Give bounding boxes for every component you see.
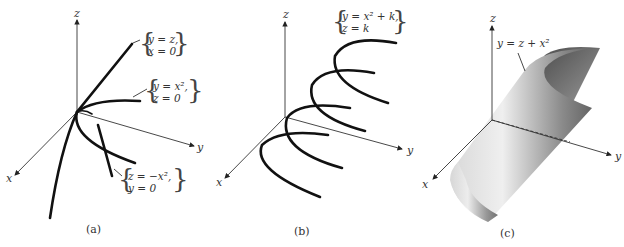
- panel-b: z y x { y = x² + k, z = k } (b): [216, 6, 414, 238]
- figure: z y x { y = z, x = 0 } { y = x², z = 0 }…: [0, 0, 624, 247]
- svg-text:y = 0: y = 0: [127, 182, 156, 194]
- caption-c: (c): [500, 227, 515, 240]
- y-axis-label: y: [196, 141, 204, 154]
- z-axis-label: z: [73, 7, 80, 20]
- panel-a: z y x { y = z, x = 0 } { y = x², z = 0 }…: [6, 7, 204, 236]
- y-axis-label: y: [406, 144, 414, 157]
- svg-text:}: }: [392, 6, 409, 36]
- equation-y-eq-z: { y = z, x = 0 }: [139, 28, 190, 58]
- surface-label-leader: [518, 53, 525, 71]
- y-axis: [77, 112, 194, 146]
- svg-text:z = 0: z = 0: [152, 92, 181, 104]
- svg-text:y = x² + k,: y = x² + k,: [341, 10, 399, 22]
- parabola-k1: [286, 106, 350, 168]
- x-axis: [225, 117, 285, 178]
- caption-a: (a): [86, 223, 101, 236]
- curve-short-segment: [98, 125, 112, 176]
- svg-text:z = −x²,: z = −x²,: [127, 170, 171, 182]
- y-axis-label: y: [614, 150, 622, 163]
- equation-z-eq-neg-x2: { z = −x², y = 0 }: [118, 164, 189, 194]
- x-axis-label: x: [422, 178, 429, 191]
- svg-text:y = x²,: y = x²,: [152, 80, 188, 92]
- parabola-k0: [261, 133, 328, 197]
- x-axis: [15, 112, 77, 175]
- panel-c: z y x y = z + x² (c): [422, 12, 622, 240]
- svg-text:}: }: [173, 28, 190, 58]
- x-axis-label: x: [216, 176, 223, 189]
- z-axis-label: z: [282, 8, 289, 21]
- equation-y-eq-x2: { y = x², z = 0 }: [144, 75, 204, 105]
- equation-y-eq-x2-plus-k: { y = x² + k, z = k }: [332, 6, 409, 36]
- z-axis-label: z: [489, 12, 496, 25]
- svg-text:z = k: z = k: [341, 22, 369, 34]
- caption-b: (b): [294, 225, 310, 238]
- x-axis-label: x: [6, 172, 13, 185]
- svg-text:}: }: [172, 164, 189, 194]
- svg-text:}: }: [187, 75, 204, 105]
- surface-equation-label: y = z + x²: [496, 37, 550, 49]
